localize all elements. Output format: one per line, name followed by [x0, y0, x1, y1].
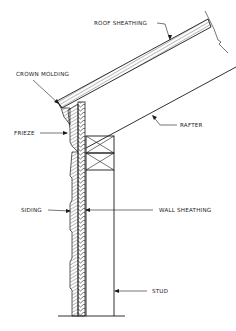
eave-section-diagram: ROOF SHEATHING CROWN MOLDING FRIEZE RAFT… [0, 0, 236, 331]
label-stud: STUD [152, 288, 168, 294]
label-roof-sheathing: ROOF SHEATHING [94, 20, 147, 26]
label-rafter: RAFTER [180, 122, 203, 128]
label-frieze: FRIEZE [14, 130, 35, 136]
label-wall-sheathing: WALL SHEATHING [159, 207, 211, 213]
leaders [33, 23, 177, 293]
top-plate [86, 136, 114, 170]
roof-sheathing [57, 19, 211, 108]
label-siding: SIDING [21, 207, 42, 213]
siding [70, 152, 78, 316]
label-crown-molding: CROWN MOLDING [16, 71, 69, 77]
stud [86, 170, 114, 316]
break-line [205, 11, 228, 53]
wall-sheathing [78, 102, 85, 316]
frieze [68, 104, 78, 152]
